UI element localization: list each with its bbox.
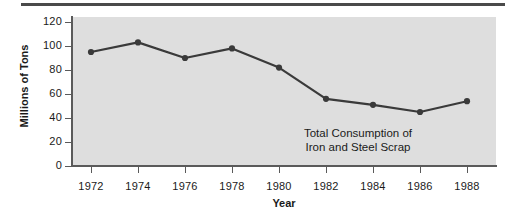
top-divider-rule	[21, 3, 505, 6]
x-axis-line	[71, 165, 497, 167]
x-axis-tick	[467, 167, 468, 173]
y-axis-tick	[65, 166, 72, 167]
x-axis-tick	[91, 167, 92, 173]
x-axis-tick	[138, 167, 139, 173]
y-axis-tick	[65, 22, 72, 23]
x-axis-tick	[279, 167, 280, 173]
y-axis-tick	[65, 142, 72, 143]
x-axis-tick	[373, 167, 374, 173]
x-axis-tick-label: 1974	[125, 180, 150, 192]
y-axis-title: Millions of Tons	[18, 26, 30, 146]
x-axis-tick-label: 1982	[313, 180, 338, 192]
x-axis-tick-label: 1984	[360, 180, 385, 192]
y-axis-tick-label: 0	[14, 160, 62, 171]
x-axis-tick-label: 1980	[266, 180, 291, 192]
y-axis-line	[71, 16, 73, 167]
x-axis-tick-label: 1976	[172, 180, 197, 192]
x-axis-tick-label: 1978	[219, 180, 244, 192]
chart-annotation: Total Consumption of Iron and Steel Scra…	[268, 126, 448, 154]
x-axis-tick	[185, 167, 186, 173]
y-axis-tick	[65, 46, 72, 47]
y-axis-tick	[65, 118, 72, 119]
y-axis-tick	[65, 94, 72, 95]
line-chart-figure: 0 20 40 60 80 100 120 1972 1974 1976 197…	[0, 0, 512, 218]
y-axis-tick	[65, 70, 72, 71]
x-axis-tick-label-wrap: 1988	[437, 176, 497, 194]
x-axis-tick	[232, 167, 233, 173]
chart-annotation-line-2: Iron and Steel Scrap	[268, 140, 448, 154]
y-axis-tick-label-wrap: 0	[10, 160, 62, 171]
x-axis-tick	[326, 167, 327, 173]
x-axis-title: Year	[72, 197, 496, 209]
chart-annotation-line-1: Total Consumption of	[268, 126, 448, 140]
x-axis-tick	[420, 167, 421, 173]
x-axis-tick-label: 1972	[78, 180, 103, 192]
x-axis-tick-label: 1986	[407, 180, 432, 192]
x-axis-tick-label: 1988	[454, 180, 479, 192]
